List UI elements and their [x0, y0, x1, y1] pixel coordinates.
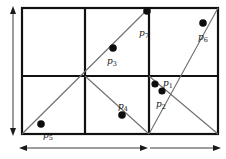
data-point-p1[interactable] [151, 80, 158, 87]
width-extent-arrow-right [150, 145, 221, 151]
height-extent-arrow [10, 6, 16, 136]
data-point-p3[interactable] [109, 44, 117, 52]
data-point-p2[interactable] [158, 87, 165, 94]
point-label-p5: p5 [43, 131, 53, 140]
data-point-p5[interactable] [37, 120, 45, 128]
point-label-p3: p3 [107, 57, 117, 66]
point-label-p1: p1 [163, 79, 173, 88]
point-label-p7: p7 [139, 29, 149, 38]
point-label-p2: p2 [156, 100, 166, 109]
width-extent-arrow-left [19, 145, 148, 151]
diagram-canvas [0, 0, 226, 159]
data-point-p6[interactable] [199, 19, 207, 27]
point-label-p6: p6 [198, 33, 208, 42]
point-label-p4: p4 [118, 102, 128, 111]
data-point-p7[interactable] [143, 7, 151, 15]
